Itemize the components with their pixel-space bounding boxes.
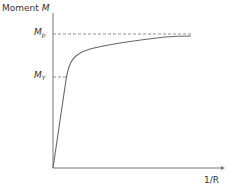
mp-tick-label: Mp (34, 27, 46, 37)
my-symbol: M (34, 70, 42, 80)
my-subscript: Y (42, 74, 46, 81)
x-axis-label-text: 1/R (204, 175, 219, 185)
my-tick-label: MY (34, 70, 45, 80)
y-axis-label-text: Moment (2, 3, 39, 13)
moment-curvature-curve (53, 36, 191, 168)
mp-subscript: p (42, 31, 46, 38)
x-axis-arrow-icon (221, 166, 225, 170)
y-axis-label: Moment M (2, 3, 49, 13)
y-axis-label-symbol: M (42, 3, 50, 13)
mp-symbol: M (34, 27, 42, 37)
x-axis-label: 1/R (204, 175, 219, 185)
